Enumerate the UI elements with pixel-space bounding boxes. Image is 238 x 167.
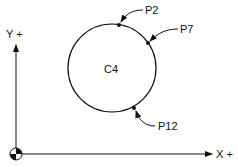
point-p2 — [117, 23, 121, 27]
y-axis-label: Y + — [6, 28, 23, 40]
circle-label: C4 — [104, 63, 118, 75]
leader-p7 — [150, 29, 178, 41]
origin-icon — [10, 148, 22, 160]
point-p12 — [132, 106, 136, 110]
diagram-canvas: Y + X + C4 P2 P7 P12 — [0, 0, 238, 167]
point-label-p7: P7 — [180, 23, 193, 35]
point-label-p12: P12 — [158, 120, 178, 132]
point-p7 — [146, 41, 150, 45]
x-axis-label: X + — [216, 148, 233, 160]
point-label-p2: P2 — [145, 4, 158, 16]
leader-p2 — [121, 10, 143, 22]
leader-p12 — [136, 111, 155, 126]
